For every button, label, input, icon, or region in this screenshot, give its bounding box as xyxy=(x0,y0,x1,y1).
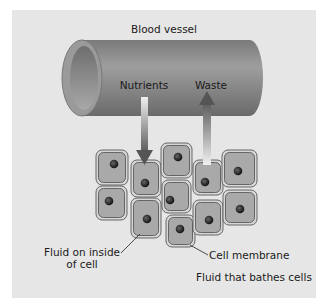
blood-vessel xyxy=(62,40,263,116)
cell-interior xyxy=(134,163,159,195)
cell-membrane-label: Cell membrane xyxy=(209,249,289,261)
cell xyxy=(193,200,223,235)
cell xyxy=(96,186,127,220)
fluid-inside-label-line1: Fluid on inside xyxy=(44,246,120,258)
waste-label: Waste xyxy=(195,79,227,91)
cell-nucleus xyxy=(105,197,114,206)
cell-nucleus xyxy=(141,179,150,188)
cell-nucleus xyxy=(174,153,183,162)
cell-interior xyxy=(196,163,221,193)
cell xyxy=(131,160,161,197)
cell-nucleus xyxy=(176,225,185,234)
cell-nucleus xyxy=(234,167,243,176)
cell-nucleus xyxy=(205,216,214,225)
cell xyxy=(166,215,195,247)
blood-vessel-diagram: Blood vessel Nutrients Waste Fluid on in… xyxy=(0,0,328,304)
cell xyxy=(162,180,191,213)
cell-nucleus xyxy=(236,205,245,214)
cell xyxy=(131,198,161,238)
blood-vessel-label: Blood vessel xyxy=(131,23,197,35)
nutrients-label: Nutrients xyxy=(120,79,169,91)
cell xyxy=(193,160,223,195)
cell-nucleus xyxy=(166,196,175,205)
cell-nucleus xyxy=(110,160,119,169)
fluid-inside-label-line2: of cell xyxy=(66,258,98,270)
cell xyxy=(96,150,128,185)
cell xyxy=(222,150,257,187)
fluid-bathes-cells-label: Fluid that bathes cells xyxy=(196,271,312,283)
cell xyxy=(161,143,192,178)
cell xyxy=(223,190,257,225)
cell-nucleus xyxy=(201,178,210,187)
cell-nucleus xyxy=(143,215,152,224)
